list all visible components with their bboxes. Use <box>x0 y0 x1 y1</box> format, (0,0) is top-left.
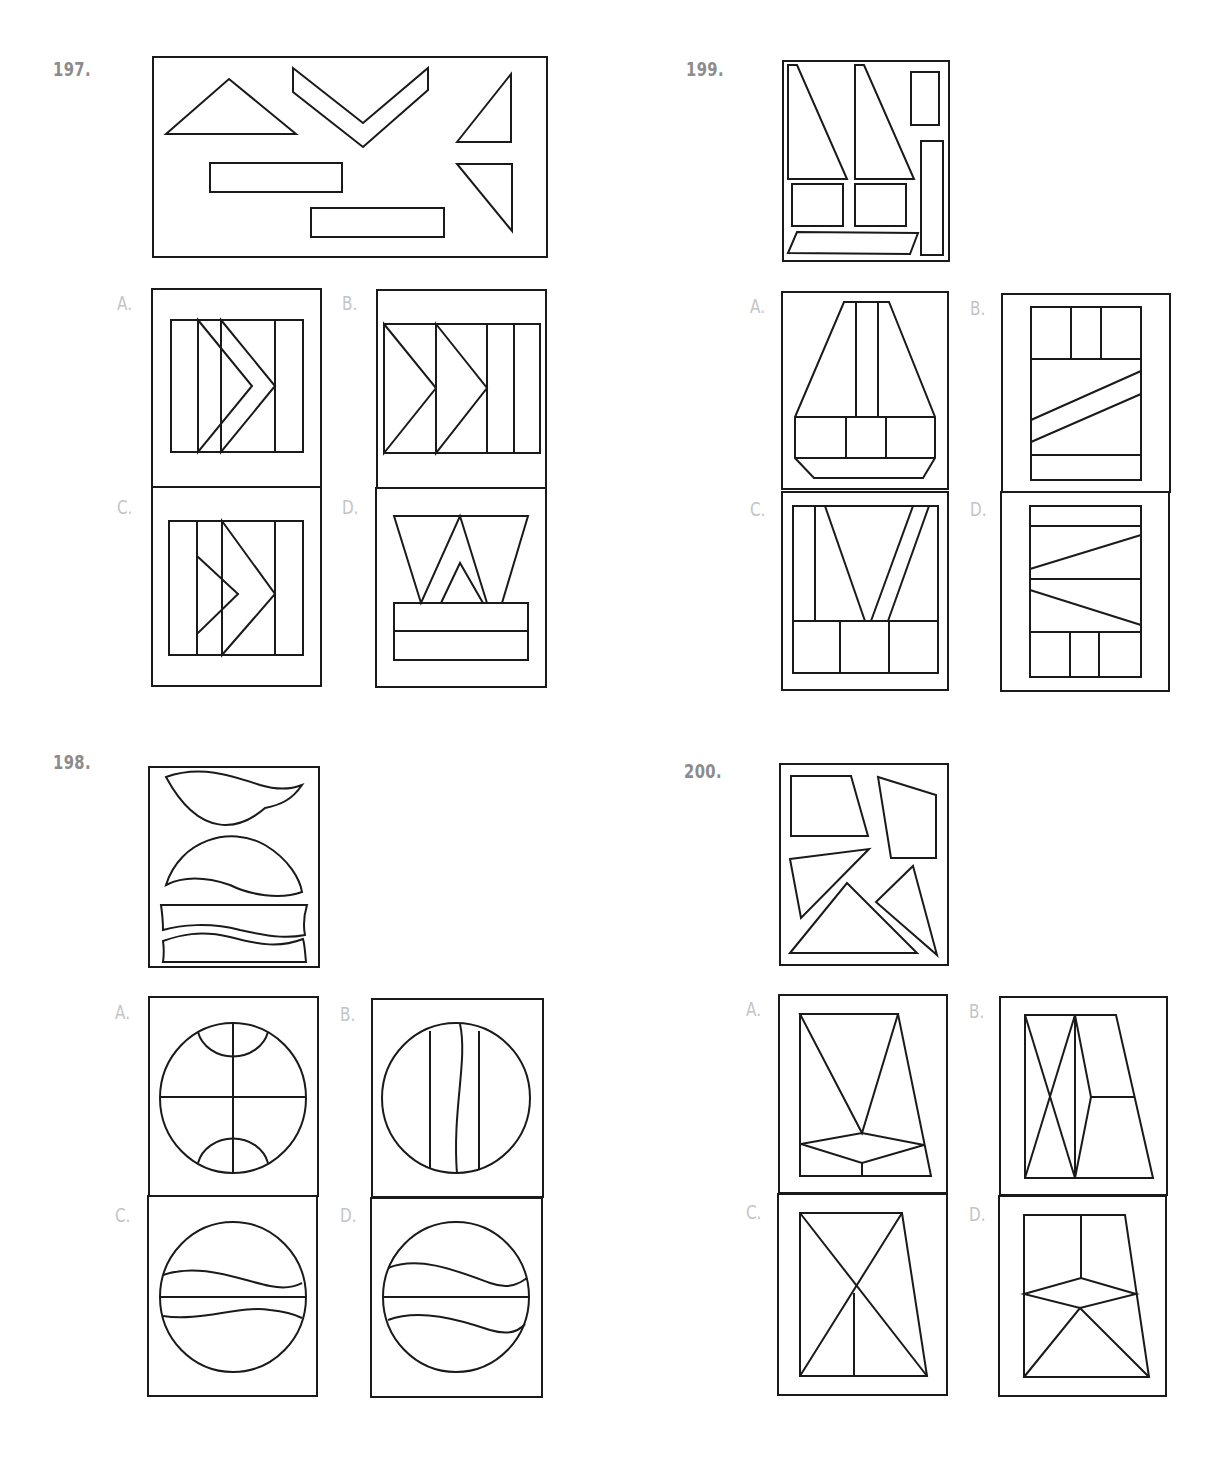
polygon-shape <box>801 1133 924 1163</box>
polygon-shape <box>1075 1015 1091 1178</box>
curve-shape <box>163 1309 302 1318</box>
curve-shape <box>166 772 302 825</box>
rectangle-shape <box>921 141 943 255</box>
polygon-shape <box>293 68 428 147</box>
polygon-shape <box>855 65 914 179</box>
problem-199-option-c[interactable] <box>782 492 948 690</box>
rectangle-shape <box>384 324 540 453</box>
curve-shape <box>163 934 306 962</box>
problem-199-stem-figure <box>783 61 949 261</box>
polygon-shape <box>795 302 935 478</box>
line-segment <box>800 1213 902 1376</box>
curve-shape <box>388 1315 525 1333</box>
curve-shape <box>163 1270 302 1287</box>
problem-197-option-b[interactable] <box>377 290 546 488</box>
problem-197-option-d[interactable] <box>376 488 546 687</box>
polygon-shape <box>384 324 436 453</box>
polygon-shape <box>222 521 275 655</box>
problem-200-stem-figure <box>780 764 948 965</box>
polygon-shape <box>790 883 917 953</box>
line-segment <box>825 506 865 621</box>
line-segment <box>1024 1308 1149 1377</box>
figure-frame <box>153 57 547 257</box>
problem-198-option-c[interactable] <box>148 1196 317 1396</box>
line-segment <box>888 506 929 621</box>
figure-frame <box>377 290 546 488</box>
line-segment <box>1030 535 1141 569</box>
polygon-shape <box>878 777 936 858</box>
figure-frame <box>1001 492 1169 691</box>
polygon-shape <box>197 556 238 634</box>
figure-frame <box>152 289 321 487</box>
polygon-shape <box>198 320 252 452</box>
polygon-shape <box>800 1014 898 1133</box>
polygon-shape <box>457 164 512 231</box>
polygon-shape <box>788 65 847 179</box>
polygon-shape <box>394 516 528 603</box>
problem-198-option-d[interactable] <box>371 1198 542 1397</box>
rectangle-shape <box>792 184 843 226</box>
line-segment <box>1031 394 1141 442</box>
polygon-shape <box>221 320 275 452</box>
polygon-shape <box>791 776 868 836</box>
rectangle-shape <box>311 208 444 237</box>
problem-197-option-a[interactable] <box>152 289 321 487</box>
problem-200-option-a[interactable] <box>779 995 947 1193</box>
polygon-shape <box>790 849 869 918</box>
problem-198-option-b[interactable] <box>372 999 543 1197</box>
line-segment <box>800 1213 927 1376</box>
problem-199-option-d[interactable] <box>1001 492 1169 691</box>
polygon-shape <box>436 324 487 453</box>
rectangle-shape <box>1030 506 1141 677</box>
problem-198-stem-figure <box>149 767 319 967</box>
problem-200-option-c[interactable] <box>778 1194 947 1395</box>
problem-197-option-c[interactable] <box>152 487 321 686</box>
polygon-shape <box>457 74 511 142</box>
line-segment <box>871 506 913 621</box>
figure-frame <box>152 487 321 686</box>
problem-200-option-b[interactable] <box>1000 997 1167 1195</box>
rectangle-shape <box>911 72 939 125</box>
problem-199-option-b[interactable] <box>1002 294 1170 492</box>
problem-200-option-d[interactable] <box>999 1196 1166 1396</box>
problem-199-option-a[interactable] <box>782 292 948 489</box>
rectangle-shape <box>855 184 906 226</box>
figure-frame <box>1002 294 1170 492</box>
problem-198-option-a[interactable] <box>149 997 318 1196</box>
line-segment <box>1030 590 1141 625</box>
polygon-shape <box>1024 1278 1136 1308</box>
curve-shape <box>166 836 302 896</box>
polygon-shape <box>788 232 918 254</box>
polygon-shape <box>800 1014 931 1176</box>
curve-shape <box>388 1263 527 1286</box>
puzzle-figures <box>0 0 1231 1463</box>
line-segment <box>1031 371 1141 420</box>
polygon-shape <box>166 79 296 134</box>
problem-197-stem-figure <box>153 57 547 257</box>
rectangle-shape <box>210 163 342 192</box>
curve-shape <box>456 1024 462 1174</box>
curve-shape <box>161 905 307 937</box>
